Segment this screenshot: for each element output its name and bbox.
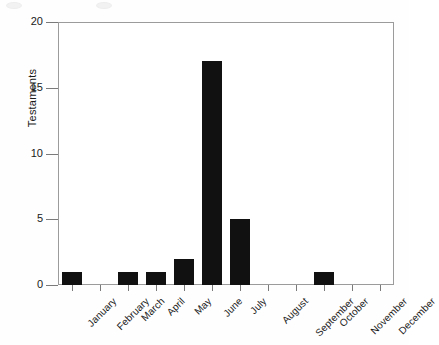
y-axis-tick-label: 5 bbox=[37, 212, 43, 224]
y-axis-title: Testaments bbox=[26, 38, 38, 158]
x-axis-tick bbox=[128, 285, 129, 291]
scan-artifact-icon bbox=[96, 2, 112, 9]
x-axis-tick bbox=[72, 285, 73, 291]
bar-june bbox=[202, 61, 222, 285]
bar-january bbox=[62, 272, 82, 285]
bar-april bbox=[146, 272, 166, 285]
x-axis-tick-label: May bbox=[194, 294, 215, 315]
x-axis-tick bbox=[240, 285, 241, 291]
y-axis-tick: 20 bbox=[46, 22, 58, 23]
y-axis-tick-label: 0 bbox=[37, 278, 43, 290]
y-axis-tick-label: 20 bbox=[31, 15, 43, 27]
y-axis-tick: 15 bbox=[46, 88, 58, 89]
x-axis-tick bbox=[352, 285, 353, 291]
x-axis-tick-label-text: August bbox=[280, 295, 310, 325]
x-axis-tick-label-text: June bbox=[221, 295, 244, 318]
bar-series bbox=[58, 22, 394, 285]
x-axis-tick bbox=[212, 285, 213, 291]
x-axis-tick-label-text: April bbox=[165, 295, 187, 317]
x-axis-tick bbox=[100, 285, 101, 291]
x-axis-tick bbox=[268, 285, 269, 291]
x-axis-tick-label: April bbox=[166, 294, 188, 316]
y-axis-tick: 0 bbox=[46, 285, 58, 286]
x-axis-tick-label: June bbox=[222, 294, 245, 317]
x-axis-tick bbox=[184, 285, 185, 291]
scan-artifact-icon bbox=[6, 2, 22, 9]
x-axis-tick-label: August bbox=[281, 294, 311, 324]
x-axis-tick-label: July bbox=[249, 294, 270, 315]
x-axis-tick bbox=[380, 285, 381, 291]
x-axis-tick bbox=[296, 285, 297, 291]
bar-october bbox=[314, 272, 334, 285]
y-axis-tick: 5 bbox=[46, 219, 58, 220]
x-axis-tick bbox=[156, 285, 157, 291]
x-axis-tick bbox=[324, 285, 325, 291]
x-axis-tick-label-text: May bbox=[192, 295, 213, 316]
y-axis-tick-label: 15 bbox=[31, 81, 43, 93]
bar-july bbox=[230, 219, 250, 285]
y-axis-tick: 10 bbox=[46, 154, 58, 155]
x-axis-tick-label-text: July bbox=[248, 295, 269, 316]
bar-may bbox=[174, 259, 194, 285]
bar-march bbox=[118, 272, 138, 285]
y-axis-tick-label: 10 bbox=[31, 147, 43, 159]
